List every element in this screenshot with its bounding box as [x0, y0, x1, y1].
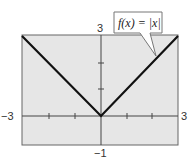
y-min-label: −1 — [94, 147, 107, 159]
x-min-label: −3 — [1, 110, 14, 122]
chart: −3 3 3 −1 f(x) = |x| — [0, 0, 195, 162]
function-label: f(x) = |x| — [118, 16, 161, 30]
x-max-label: 3 — [181, 110, 187, 122]
y-max-label: 3 — [97, 22, 103, 34]
